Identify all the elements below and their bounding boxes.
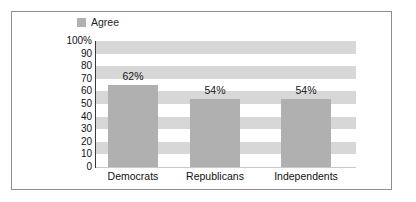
y-axis-tick-labels: 100% 90 80 70 60 50 40 30 20 10 0	[42, 0, 92, 202]
grid-band	[96, 41, 356, 54]
y-tick-label: 20	[42, 137, 92, 147]
bar-value-republicans: 54%	[190, 85, 240, 96]
bar-democrats	[108, 85, 158, 167]
y-tick-label: 60	[42, 86, 92, 96]
y-tick-label: 90	[42, 49, 92, 59]
plot-wrapper: 100% 90 80 70 60 50 40 30 20 10 0 62% 54…	[0, 0, 416, 202]
y-tick-label: 70	[42, 74, 92, 84]
y-tick-label: 30	[42, 124, 92, 134]
y-tick-label: 50	[42, 99, 92, 109]
x-tick-label-democrats: Democrats	[93, 170, 173, 182]
bar-independents	[281, 99, 331, 167]
y-tick-label: 0	[42, 162, 92, 172]
bar-republicans	[190, 99, 240, 167]
bar-value-democrats: 62%	[108, 71, 158, 82]
bar-value-independents: 54%	[281, 85, 331, 96]
y-tick-label: 100%	[42, 36, 92, 46]
x-axis-line	[95, 167, 356, 168]
x-tick-label-republicans: Republicans	[175, 170, 255, 182]
chart-figure: Agree 100% 90 80 70 60 50 40 30 20 10 0	[0, 0, 416, 202]
y-tick-label: 40	[42, 112, 92, 122]
y-tick-label: 80	[42, 61, 92, 71]
x-tick-label-independents: Independents	[266, 170, 346, 182]
y-tick-label: 10	[42, 149, 92, 159]
y-axis-line	[95, 41, 96, 168]
